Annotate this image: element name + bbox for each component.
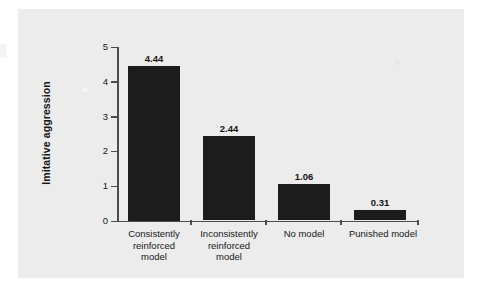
y-tick-5	[111, 47, 117, 49]
bar-value-consistently-reinforced-model: 4.44	[128, 53, 180, 64]
cat-line-1-0: Inconsistently	[187, 228, 271, 240]
x-category-label-inconsistently-reinforced-model: Inconsistently reinforced model	[187, 228, 271, 263]
y-tick-label-5: 5	[90, 41, 108, 52]
bar-inconsistently-reinforced-model[interactable]	[203, 136, 255, 221]
cat-line-1-2: model	[187, 251, 271, 263]
x-category-label-punished-model: Punished model	[338, 228, 428, 240]
y-tick-label-1: 1	[90, 180, 108, 191]
y-tick-label-4: 4	[90, 76, 108, 87]
x-tick-divider-4	[417, 220, 419, 225]
cat-line-3-0: Punished model	[338, 228, 428, 240]
cat-line-2-0: No model	[266, 228, 342, 240]
bar-value-punished-model: 0.31	[354, 197, 406, 208]
plot-area: Imitative aggression 5 4 3 2 1 0	[18, 9, 464, 278]
y-tick-1	[111, 186, 117, 188]
x-axis-line	[117, 221, 418, 223]
bar-punished-model[interactable]	[354, 210, 406, 221]
bar-consistently-reinforced-model[interactable]	[128, 66, 180, 221]
x-tick-divider-1	[190, 220, 192, 225]
x-category-label-no-model: No model	[266, 228, 342, 240]
bar-value-inconsistently-reinforced-model: 2.44	[203, 123, 255, 134]
y-axis-label: Imitative aggression	[40, 68, 52, 198]
y-tick-3	[111, 116, 117, 118]
y-tick-label-2: 2	[90, 145, 108, 156]
page-edge-artifact	[0, 44, 7, 58]
bar-no-model[interactable]	[278, 184, 330, 221]
cat-line-0-0: Consistently	[114, 228, 194, 240]
y-tick-0	[111, 221, 117, 223]
x-tick-divider-2	[265, 220, 267, 225]
bar-value-no-model: 1.06	[278, 171, 330, 182]
chart-panel: Imitative aggression 5 4 3 2 1 0	[18, 9, 464, 278]
x-tick-divider-3	[340, 220, 342, 225]
figure-page: Imitative aggression 5 4 3 2 1 0	[0, 0, 481, 300]
y-tick-label-0: 0	[90, 215, 108, 226]
cat-line-0-1: reinforced	[114, 240, 194, 252]
y-tick-4	[111, 81, 117, 83]
cat-line-0-2: model	[114, 251, 194, 263]
y-axis-line	[117, 47, 119, 221]
cat-line-1-1: reinforced	[187, 240, 271, 252]
x-category-label-consistently-reinforced-model: Consistently reinforced model	[114, 228, 194, 263]
y-tick-2	[111, 151, 117, 153]
y-tick-label-3: 3	[90, 111, 108, 122]
